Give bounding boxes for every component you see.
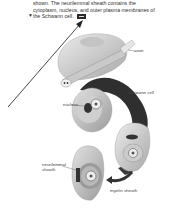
label-neurilemmal-sheath-2: sheath [42,167,55,172]
label-myelin-sheath: myelin sheath [110,188,137,193]
label-axon: axon [134,48,144,53]
label-schwann-cell: Schwann cell [128,90,154,95]
label-nucleus: nucleus [63,102,78,107]
schwann-cell-diagram [0,0,170,210]
